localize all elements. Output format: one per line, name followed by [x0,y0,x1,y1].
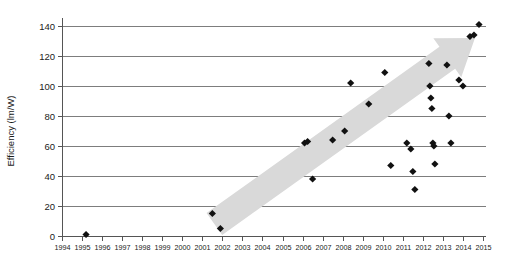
x-tick-label-1994: 1994 [55,243,71,252]
x-tick-label-2007: 2007 [316,243,332,252]
y-tick-label-120: 120 [39,51,55,62]
x-tick-label-2015: 2015 [476,243,492,252]
x-tick-label-2002: 2002 [215,243,231,252]
data-point-marker [445,112,452,119]
y-tick-label-100: 100 [39,81,55,92]
x-tick-label-1998: 1998 [135,243,151,252]
data-point-marker [428,105,435,112]
y-tick-label-140: 140 [39,21,55,32]
x-tick-label-2011: 2011 [396,243,411,252]
data-point-marker [427,94,434,101]
x-tick-label-1995: 1995 [75,243,91,252]
x-tick-label-2003: 2003 [235,243,251,252]
x-tick-label-1996: 1996 [95,243,111,252]
x-tick-label-2000: 2000 [175,243,191,252]
x-tick-label-2009: 2009 [356,243,372,252]
data-point-marker [411,186,418,193]
x-tick-label-2005: 2005 [276,243,292,252]
trend-arrow-shape [207,38,475,235]
gridlines [62,27,486,237]
efficiency-scatter-chart: 020406080100120140 199419951996199719981… [0,0,513,262]
data-point-marker [82,231,89,238]
axis-labels: Efficiency (lm/W) [5,95,16,166]
y-tick-label-20: 20 [44,201,55,212]
x-tick-label-2010: 2010 [376,243,392,252]
chart-canvas: 020406080100120140 199419951996199719981… [0,0,513,262]
x-tick-label-2001: 2001 [195,243,211,252]
data-point-marker [381,69,388,76]
x-tick-label-2012: 2012 [416,243,432,252]
data-point-marker [403,139,410,146]
y-axis-title: Efficiency (lm/W) [5,95,16,166]
data-point-marker [447,139,454,146]
data-point-marker [431,160,438,167]
x-tick-label-1999: 1999 [155,243,171,252]
data-point-marker [475,21,482,28]
data-points [82,21,482,238]
y-tick-label-80: 80 [44,111,55,122]
y-tick-label-0: 0 [50,231,55,242]
data-point-marker [455,76,462,83]
y-axis: 020406080100120140 [39,18,62,242]
x-tick-label-2006: 2006 [296,243,312,252]
x-tick-label-2004: 2004 [255,243,271,252]
trend-arrow-annotation [207,38,475,235]
x-axis: 1994199519961997199819992000200120022003… [55,237,492,252]
data-point-marker [347,79,354,86]
x-tick-label-2014: 2014 [456,243,472,252]
data-point-marker [409,168,416,175]
y-tick-label-40: 40 [44,171,55,182]
x-tick-label-2013: 2013 [436,243,452,252]
x-tick-label-1997: 1997 [115,243,131,252]
data-point-marker [387,162,394,169]
y-tick-label-60: 60 [44,141,55,152]
x-tick-label-2008: 2008 [336,243,352,252]
data-point-marker [459,82,466,89]
